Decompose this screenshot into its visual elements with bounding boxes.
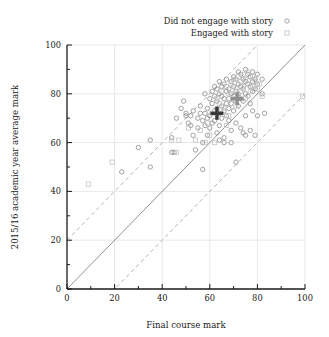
- x-tick-label: 0: [64, 293, 69, 303]
- y-tick-label: 100: [45, 40, 61, 50]
- y-tick-label: 20: [50, 235, 61, 245]
- x-tick-label: 40: [157, 293, 168, 303]
- y-tick-label: 80: [50, 89, 61, 99]
- y-tick-label: 60: [50, 138, 61, 148]
- legend-label: Did not engage with story: [164, 16, 274, 26]
- y-tick-label: 40: [50, 186, 61, 196]
- y-axis-title: 2015/16 academic year average mark: [10, 84, 20, 249]
- legend-item-1[interactable]: Did not engage with story: [164, 16, 289, 26]
- legend-label: Engaged with story: [191, 28, 273, 38]
- x-tick-label: 20: [109, 293, 120, 303]
- y-tick-label: 0: [56, 284, 61, 294]
- scatter-plot-figure: 020406080100020406080100 Did not engage …: [0, 0, 329, 337]
- x-tick-label: 80: [252, 293, 263, 303]
- figure-background: [0, 0, 329, 337]
- chart-canvas: 020406080100020406080100 Did not engage …: [0, 0, 329, 337]
- x-tick-label: 60: [205, 293, 216, 303]
- x-tick-label: 100: [297, 293, 313, 303]
- x-axis-title: Final course mark: [146, 320, 226, 330]
